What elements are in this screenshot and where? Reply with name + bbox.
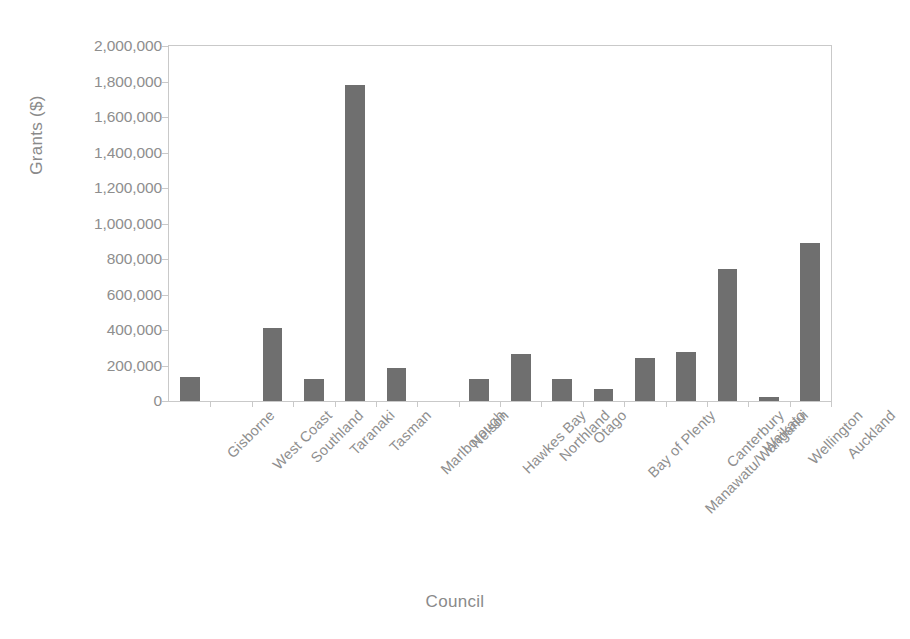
y-axis-tick-label: 1,200,000 — [62, 179, 162, 197]
bar — [676, 352, 696, 401]
bar-series — [169, 46, 831, 401]
y-axis-tick-label: 400,000 — [62, 321, 162, 339]
x-axis-category-labels: GisborneWest CoastSouthlandTaranakiTasma… — [169, 407, 831, 567]
x-axis-category-label: Bay of Plenty — [645, 407, 719, 481]
bar — [635, 358, 655, 401]
y-axis-title: Grants ($) — [27, 25, 57, 245]
x-axis-title: Council — [0, 592, 910, 612]
bar-chart: Grants ($) 0200,000400,000600,000800,000… — [0, 0, 910, 639]
bar — [718, 269, 738, 401]
y-axis-tick-label: 800,000 — [62, 250, 162, 268]
y-axis-tick-label: 0 — [62, 392, 162, 410]
y-axis-tick-labels: 0200,000400,000600,000800,0001,000,0001,… — [58, 45, 162, 402]
bar — [552, 379, 572, 401]
y-axis-tick-label: 1,600,000 — [62, 108, 162, 126]
bar — [800, 243, 820, 401]
bar — [180, 377, 200, 401]
bar — [759, 397, 779, 401]
bar — [387, 368, 407, 401]
bar — [511, 354, 531, 401]
x-axis-tick-mark — [831, 402, 832, 407]
y-axis-tick-label: 1,800,000 — [62, 73, 162, 91]
bar — [469, 379, 489, 401]
y-axis-tick-label: 600,000 — [62, 286, 162, 304]
bar — [304, 379, 324, 401]
y-axis-tick-label: 1,400,000 — [62, 144, 162, 162]
bar — [594, 389, 614, 401]
bar — [263, 328, 283, 401]
bar — [345, 85, 365, 401]
y-axis-tick-label: 2,000,000 — [62, 37, 162, 55]
x-axis-category-label: Gisborne — [223, 407, 277, 461]
y-axis-tick-label: 200,000 — [62, 357, 162, 375]
y-axis-tick-label: 1,000,000 — [62, 215, 162, 233]
